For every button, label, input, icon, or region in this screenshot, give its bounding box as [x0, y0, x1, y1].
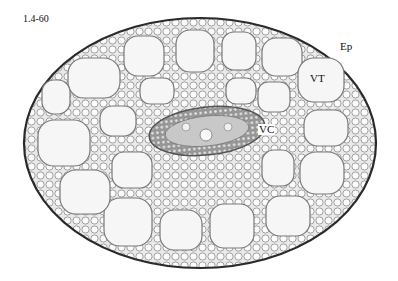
- micrograph: [0, 0, 398, 281]
- vascular-cylinder-label: VC: [258, 124, 275, 135]
- figure-id-label: 1.4-60: [23, 14, 49, 24]
- epidermis-label: Ep: [340, 41, 352, 52]
- stem-cross-section: [24, 18, 376, 268]
- vascular-tissue-label: VT: [310, 73, 325, 84]
